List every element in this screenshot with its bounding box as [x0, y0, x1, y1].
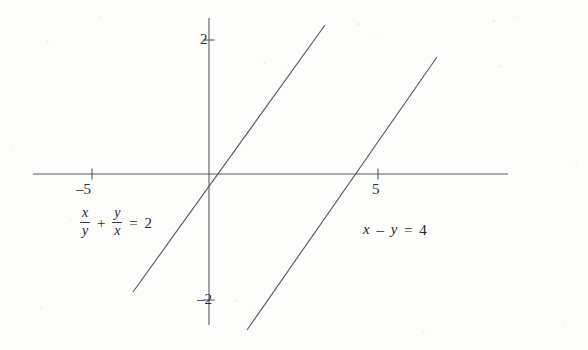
- fraction-y-over-x: y x: [112, 206, 122, 238]
- fraction-numerator-y: y: [112, 206, 122, 221]
- minus-operator: –: [373, 223, 387, 238]
- variable-x: x: [363, 221, 370, 237]
- y-tick-label-minus-2: –2: [197, 292, 212, 307]
- x-tick-label-minus-5: –5: [76, 182, 91, 197]
- fraction-denominator-y: y: [80, 224, 90, 239]
- equation-label-right: x – y = 4: [363, 222, 427, 238]
- equals-operator: =: [126, 216, 140, 231]
- plus-operator: +: [94, 216, 108, 231]
- fraction-denominator-x: x: [112, 224, 122, 239]
- fraction-x-over-y: x y: [80, 206, 90, 238]
- x-tick-label-5: 5: [372, 182, 380, 197]
- equation-right-hand-side: 2: [144, 216, 152, 231]
- line-xy-plus-yx-equals-2: [133, 25, 325, 292]
- equation-right-hand-side: 4: [419, 223, 427, 238]
- equation-label-left: x y + y x = 2: [80, 207, 152, 239]
- variable-y: y: [391, 221, 398, 237]
- fraction-numerator-x: x: [80, 206, 90, 221]
- coordinate-plane-plot: [0, 0, 588, 350]
- line-x-minus-y-equals-4: [247, 57, 437, 330]
- figure-canvas: 2 –2 –5 5 x y + y x = 2 x – y = 4: [0, 0, 588, 350]
- y-tick-label-2: 2: [200, 32, 208, 47]
- equals-operator: =: [401, 223, 415, 238]
